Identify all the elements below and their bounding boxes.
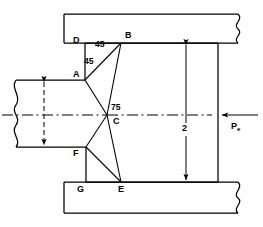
angle-label-center-75: 75 <box>111 103 120 112</box>
point-label-D: D <box>73 36 80 45</box>
punch-shaft <box>14 80 86 147</box>
point-label-F: F <box>73 149 79 158</box>
lower-die-block <box>64 182 240 213</box>
figure-root: D B A C F G E 45 45 75 2 Pe <box>0 0 263 227</box>
break-line-top <box>236 14 239 43</box>
line-F-E <box>86 147 121 182</box>
break-line-bottom <box>236 182 239 213</box>
dimension-label-2: 2 <box>182 124 187 133</box>
point-label-G: G <box>77 185 84 194</box>
angle-label-lower-45: 45 <box>84 57 93 66</box>
line-F-C <box>86 115 107 147</box>
line-A-C <box>85 80 107 115</box>
point-label-A: A <box>73 70 80 79</box>
point-label-E: E <box>118 185 124 194</box>
upper-die-block <box>64 14 240 43</box>
point-label-C: C <box>113 117 120 126</box>
angle-label-upper-45: 45 <box>95 40 104 49</box>
point-label-B: B <box>125 31 132 40</box>
break-line-shaft <box>14 80 17 147</box>
force-label-P: Pe <box>231 122 240 131</box>
